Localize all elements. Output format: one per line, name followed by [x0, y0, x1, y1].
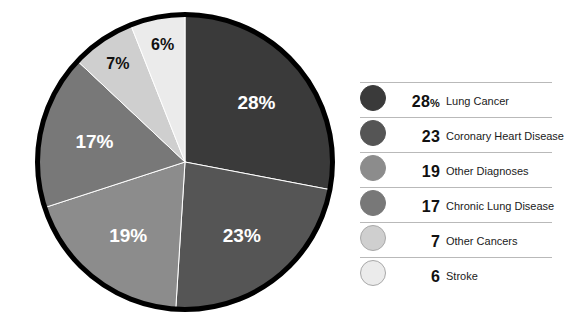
legend-row[interactable]: 7Other Cancers: [360, 222, 552, 257]
legend-label: Other Cancers: [446, 235, 518, 247]
legend-row[interactable]: 23Coronary Heart Disease: [360, 117, 552, 152]
legend-label: Stroke: [446, 270, 478, 282]
legend-label: Coronary Heart Disease: [446, 130, 564, 142]
legend-value-suffix: %: [430, 97, 440, 109]
pie-chart-area: 28%23%19%17%7%6%: [33, 10, 337, 314]
legend-row[interactable]: 28%Lung Cancer: [360, 82, 552, 117]
pie-slice-label: 17%: [75, 131, 113, 152]
legend-label: Lung Cancer: [446, 95, 509, 107]
legend-row[interactable]: 19Other Diagnoses: [360, 152, 552, 187]
legend-value: 7: [392, 233, 440, 251]
pie-slice-label: 19%: [109, 225, 147, 246]
legend-swatch-circle-icon: [360, 260, 386, 286]
pie-slice-label: 7%: [106, 55, 129, 72]
pie-slice-label: 23%: [223, 225, 261, 246]
legend-swatch-circle-icon: [360, 120, 386, 146]
pie-slice-label: 6%: [151, 36, 174, 53]
legend-value: 19: [392, 163, 440, 181]
legend-value: 28%: [392, 93, 440, 111]
pie-slice-label: 28%: [237, 92, 275, 113]
legend-swatch-circle-icon: [360, 225, 386, 251]
legend-value: 23: [392, 128, 440, 146]
legend-value: 17: [392, 198, 440, 216]
legend-swatch-circle-icon: [360, 85, 386, 111]
legend-swatch-circle-icon: [360, 155, 386, 181]
legend-row[interactable]: 17Chronic Lung Disease: [360, 187, 552, 222]
legend: 28%Lung Cancer23Coronary Heart Disease19…: [360, 82, 552, 292]
legend-row[interactable]: 6Stroke: [360, 257, 552, 292]
legend-value: 6: [392, 268, 440, 286]
legend-label: Other Diagnoses: [446, 165, 529, 177]
pie-chart-svg: 28%23%19%17%7%6%: [33, 10, 337, 314]
legend-swatch-circle-icon: [360, 190, 386, 216]
legend-label: Chronic Lung Disease: [446, 200, 554, 212]
